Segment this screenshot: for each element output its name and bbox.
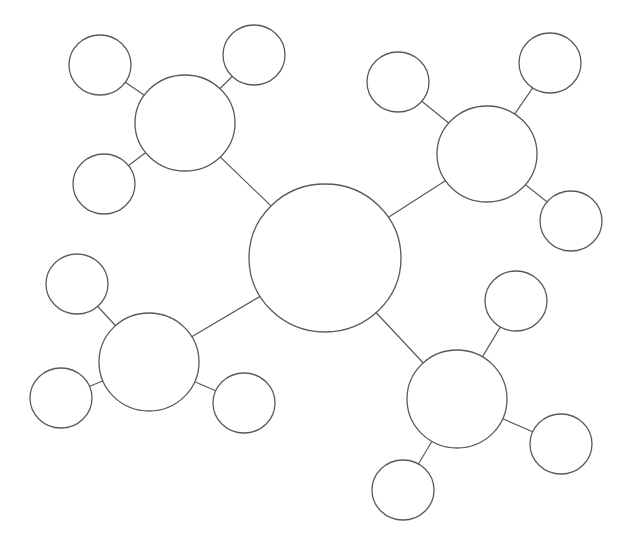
central-node[interactable] [249,184,401,332]
leaf-bl-1-node[interactable] [46,254,108,314]
hub-bottom-right-node-shape[interactable] [407,350,507,448]
leaf-tr-1-node-shape[interactable] [367,52,429,112]
leaf-br-3-node[interactable] [372,460,434,520]
leaf-bl-1-node-shape[interactable] [46,254,108,314]
leaf-tr-3-node[interactable] [540,191,602,251]
leaf-tr-2-node[interactable] [519,33,581,93]
bubble-nodes [30,25,602,520]
leaf-tr-1-node[interactable] [367,52,429,112]
leaf-br-3-node-shape[interactable] [372,460,434,520]
leaf-br-1-node-shape[interactable] [485,271,547,331]
leaf-bl-3-node-shape[interactable] [213,373,275,433]
leaf-bl-2-node-shape[interactable] [30,368,92,428]
hub-bottom-left-node-shape[interactable] [99,313,199,411]
leaf-tl-3-node-shape[interactable] [73,154,135,214]
hub-bottom-left-node[interactable] [99,313,199,411]
hub-bottom-right-node[interactable] [407,350,507,448]
hub-top-right-node-shape[interactable] [437,106,537,202]
hub-top-left-node-shape[interactable] [135,75,235,171]
leaf-br-2-node[interactable] [530,414,592,474]
leaf-br-1-node[interactable] [485,271,547,331]
central-node-shape[interactable] [249,184,401,332]
hub-top-right-node[interactable] [437,106,537,202]
leaf-tr-2-node-shape[interactable] [519,33,581,93]
leaf-bl-3-node[interactable] [213,373,275,433]
leaf-bl-2-node[interactable] [30,368,92,428]
leaf-tl-1-node-shape[interactable] [69,35,131,95]
hub-top-left-node[interactable] [135,75,235,171]
leaf-tl-2-node[interactable] [223,25,285,85]
bubble-map-diagram [0,0,629,551]
leaf-tl-1-node[interactable] [69,35,131,95]
leaf-tl-2-node-shape[interactable] [223,25,285,85]
leaf-tl-3-node[interactable] [73,154,135,214]
leaf-tr-3-node-shape[interactable] [540,191,602,251]
leaf-br-2-node-shape[interactable] [530,414,592,474]
